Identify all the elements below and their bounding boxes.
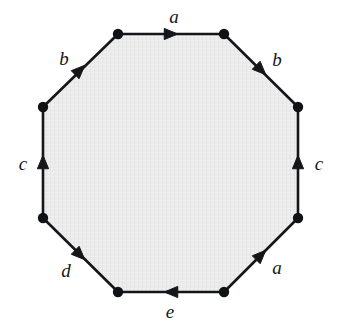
octagon-vertex-dot [38, 213, 48, 223]
octagon-diagram-svg [0, 0, 340, 329]
octagon-vertex-dot [293, 102, 303, 112]
octagon-vertex-dot [219, 29, 229, 39]
octagon-vertex-dot [293, 213, 303, 223]
edge-label-top-right: b [272, 50, 282, 69]
edge-label-top-left: b [59, 49, 69, 68]
edge-label-left: c [19, 154, 27, 173]
edge-label-bottom: e [166, 302, 174, 321]
edge-label-right: c [315, 154, 323, 173]
edge-label-bottom-left: d [61, 261, 71, 280]
edge-label-top: a [169, 7, 179, 26]
octagon-figure: abcaedcb [0, 0, 340, 329]
octagon-vertex-dot [219, 287, 229, 297]
octagon-vertex-dot [113, 287, 123, 297]
edge-label-bottom-right: a [272, 258, 282, 277]
octagon-vertex-dot [113, 29, 123, 39]
octagon-vertex-dot [38, 102, 48, 112]
